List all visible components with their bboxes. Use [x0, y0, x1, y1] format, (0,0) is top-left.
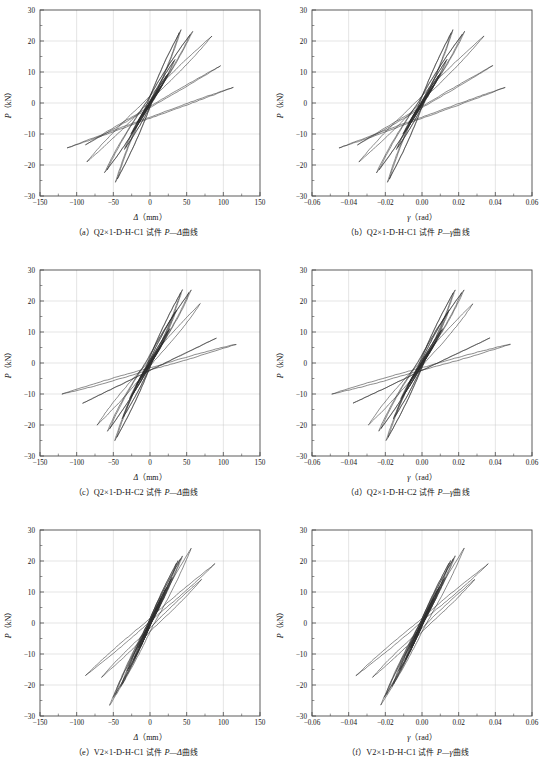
y-tick-label: 0 — [303, 360, 307, 368]
caption-b-mid: 试件 — [419, 228, 435, 237]
ticks-b: −0.06−0.04−0.020.000.020.040.06−30−20−10… — [296, 7, 539, 207]
x-tick-label: 100 — [218, 459, 229, 467]
caption-f-mid: 试件 — [418, 748, 434, 757]
y-tick-label: −20 — [24, 682, 36, 690]
plot-d: −0.06−0.04−0.020.000.020.040.06−30−20−10… — [272, 260, 544, 486]
y-axis-label: P（kN） — [4, 608, 13, 640]
loop — [83, 338, 217, 403]
y-tick-label: −20 — [24, 162, 36, 170]
y-tick-label: 10 — [300, 69, 308, 77]
chart-svg-e: −150−100−50050100150−30−20−100102030Δ（mm… — [0, 520, 272, 746]
caption-f-pair: P—γ — [437, 748, 453, 757]
y-tick-label: 30 — [300, 527, 308, 535]
caption-e-tail: 曲线 — [182, 748, 198, 757]
caption-b-specimen: Q2×1-D-H-C1 — [367, 228, 417, 237]
x-tick-label: −0.04 — [340, 459, 357, 467]
caption-a: （a）Q2×1-D-H-C1 试件 P—Δ曲线 — [0, 228, 272, 238]
x-tick-label: 0.02 — [452, 719, 465, 727]
x-tick-label: 0 — [148, 719, 152, 727]
x-tick-label: −0.02 — [377, 459, 394, 467]
x-tick-label: −50 — [108, 719, 120, 727]
x-tick-label: 100 — [218, 199, 229, 207]
ticks-c: −150−100−50050100150−30−20−100102030 — [24, 267, 266, 467]
x-tick-label: −100 — [69, 459, 84, 467]
caption-c-tail: 曲线 — [182, 488, 198, 497]
x-tick-label: 0.04 — [489, 459, 502, 467]
x-tick-label: 0.00 — [416, 459, 429, 467]
x-tick-label: −0.04 — [340, 199, 357, 207]
x-axis-label: Δ（mm） — [132, 733, 166, 742]
y-axis-label: P（kN） — [276, 88, 285, 120]
x-tick-label: 0.00 — [416, 719, 429, 727]
y-tick-label: 10 — [300, 329, 308, 337]
caption-e-mid: 试件 — [146, 748, 162, 757]
y-axis-label: P（kN） — [4, 348, 13, 380]
y-tick-label: −10 — [296, 131, 308, 139]
y-tick-label: −30 — [24, 193, 36, 201]
caption-b-pair: P—γ — [437, 228, 453, 237]
y-tick-label: 10 — [28, 69, 36, 77]
caption-b-index: （b） — [346, 228, 366, 237]
y-tick-label: 30 — [28, 7, 36, 15]
x-tick-label: 0.04 — [489, 719, 502, 727]
x-axis-label: γ（rad） — [407, 213, 436, 222]
y-tick-label: 0 — [303, 620, 307, 628]
chart-svg-b: −0.06−0.04−0.020.000.020.040.06−30−20−10… — [272, 0, 544, 226]
x-tick-label: 0.02 — [452, 199, 465, 207]
caption-e: （e）V2×1-D-H-C1 试件 P—Δ曲线 — [0, 748, 272, 758]
hysteresis-curves-d — [332, 290, 510, 440]
caption-d-specimen: Q2×1-D-H-C2 — [367, 488, 417, 497]
caption-f-specimen: V2×1-D-H-C1 — [366, 748, 416, 757]
y-tick-label: −10 — [24, 651, 36, 659]
caption-c: （c）Q2×1-D-H-C2 试件 P—Δ曲线 — [0, 488, 272, 498]
chart-svg-f: −0.06−0.04−0.020.000.020.040.06−30−20−10… — [272, 520, 544, 746]
x-tick-label: 150 — [255, 459, 266, 467]
x-tick-label: 0 — [148, 199, 152, 207]
x-tick-label: 150 — [255, 719, 266, 727]
x-tick-label: 50 — [183, 719, 191, 727]
y-tick-label: 30 — [300, 7, 308, 15]
caption-d-mid: 试件 — [419, 488, 435, 497]
y-tick-label: −30 — [296, 453, 308, 461]
panel-b: −0.06−0.04−0.020.000.020.040.06−30−20−10… — [272, 0, 544, 260]
caption-b: （b）Q2×1-D-H-C1 试件 P—γ曲线 — [272, 228, 544, 238]
x-tick-label: 0 — [148, 459, 152, 467]
x-tick-label: −0.02 — [377, 719, 394, 727]
x-tick-label: 0.06 — [526, 719, 539, 727]
caption-d-pair: P—γ — [437, 488, 453, 497]
x-tick-label: −0.04 — [340, 719, 357, 727]
y-tick-label: 30 — [28, 527, 36, 535]
x-axis-label: Δ（mm） — [132, 473, 166, 482]
y-tick-label: −30 — [24, 453, 36, 461]
y-tick-label: 30 — [300, 267, 308, 275]
x-tick-label: 0.02 — [452, 459, 465, 467]
y-tick-label: 20 — [300, 558, 308, 566]
y-axis-label: P（kN） — [276, 348, 285, 380]
hysteresis-curves-c — [62, 290, 236, 441]
caption-b-tail: 曲线 — [453, 228, 469, 237]
y-tick-label: −30 — [296, 193, 308, 201]
y-axis-label: P（kN） — [276, 608, 285, 640]
panel-a: −150−100−50050100150−30−20−100102030Δ（mm… — [0, 0, 272, 260]
x-tick-label: −50 — [108, 459, 120, 467]
panel-d: −0.06−0.04−0.020.000.020.040.06−30−20−10… — [272, 260, 544, 520]
x-tick-label: −0.02 — [377, 199, 394, 207]
chart-svg-d: −0.06−0.04−0.020.000.020.040.06−30−20−10… — [272, 260, 544, 486]
caption-c-pair: P—Δ — [164, 488, 182, 497]
caption-d-tail: 曲线 — [453, 488, 469, 497]
y-tick-label: 20 — [28, 558, 36, 566]
y-tick-label: −20 — [296, 422, 308, 430]
ticks-a: −150−100−50050100150−30−20−100102030 — [24, 7, 266, 207]
y-tick-label: 20 — [28, 298, 36, 306]
y-tick-label: 20 — [300, 38, 308, 46]
chart-svg-c: −150−100−50050100150−30−20−100102030Δ（mm… — [0, 260, 272, 486]
plot-b: −0.06−0.04−0.020.000.020.040.06−30−20−10… — [272, 0, 544, 226]
y-tick-label: 0 — [31, 620, 35, 628]
y-tick-label: −30 — [296, 713, 308, 721]
loop — [353, 338, 489, 403]
x-tick-label: −50 — [108, 199, 120, 207]
panel-f: −0.06−0.04−0.020.000.020.040.06−30−20−10… — [272, 520, 544, 779]
y-tick-label: −10 — [24, 131, 36, 139]
y-tick-label: 20 — [300, 298, 308, 306]
y-tick-label: 10 — [28, 329, 36, 337]
